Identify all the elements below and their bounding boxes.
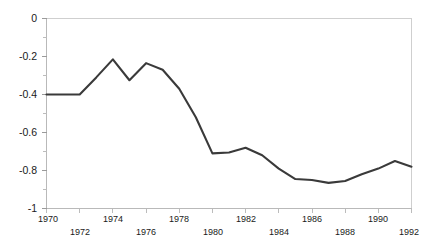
data-series-line [47, 59, 412, 183]
x-tick-label-1972: 1972 [70, 227, 90, 237]
y-tick-label-neg04: -0.4 [19, 88, 37, 100]
y-tick-label-neg08: -0.8 [19, 164, 37, 176]
x-tick-label-1986: 1986 [302, 214, 322, 224]
x-tick-label-1980: 1980 [203, 227, 223, 237]
plot-area-frame [47, 19, 412, 209]
y-axis-minor-ticks [43, 38, 47, 190]
x-tick-label-1970: 1970 [38, 214, 58, 224]
x-tick-label-1974: 1974 [103, 214, 123, 224]
x-tick-label-1992: 1992 [399, 227, 419, 237]
line-chart-figure: 0 -0.2 -0.4 -0.6 -0.8 -1 1970 1974 1978 … [0, 0, 427, 248]
y-tick-label-neg06: -0.6 [19, 126, 37, 138]
y-tick-label-0: 0 [31, 12, 37, 24]
x-tick-label-1988: 1988 [335, 227, 355, 237]
x-tick-label-1984: 1984 [269, 227, 289, 237]
x-axis-ticks [47, 209, 412, 213]
x-tick-label-1976: 1976 [136, 227, 156, 237]
chart-canvas: 0 -0.2 -0.4 -0.6 -0.8 -1 1970 1974 1978 … [0, 0, 427, 248]
x-tick-label-1982: 1982 [236, 214, 256, 224]
y-tick-label-neg1: -1 [28, 202, 37, 214]
x-tick-label-1978: 1978 [169, 214, 189, 224]
x-tick-label-1990: 1990 [368, 214, 388, 224]
y-tick-label-neg02: -0.2 [19, 50, 37, 62]
